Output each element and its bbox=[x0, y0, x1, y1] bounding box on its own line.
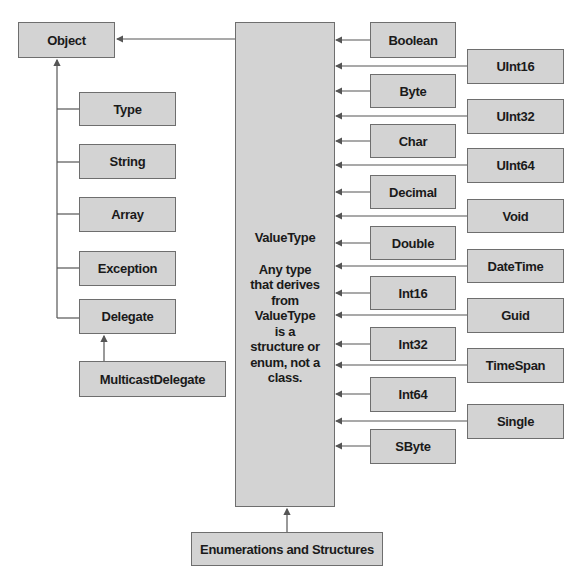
node-sbyte: SByte bbox=[370, 429, 456, 464]
type-hierarchy-diagram: Object Type String Array Exception Deleg… bbox=[0, 0, 581, 585]
node-decimal: Decimal bbox=[370, 175, 456, 209]
node-type: Type bbox=[79, 92, 176, 126]
node-uint64: UInt64 bbox=[467, 148, 564, 183]
node-object: Object bbox=[18, 22, 115, 58]
valuetype-title: ValueType bbox=[236, 230, 334, 246]
node-delegate: Delegate bbox=[79, 299, 176, 334]
node-valuetype: ValueType Any type that derives from Val… bbox=[235, 22, 335, 507]
node-string: String bbox=[79, 144, 176, 179]
node-single: Single bbox=[467, 404, 564, 439]
node-int64: Int64 bbox=[370, 377, 456, 412]
node-enumerations-and-structures: Enumerations and Structures bbox=[191, 532, 383, 566]
node-datetime: DateTime bbox=[467, 249, 564, 283]
node-uint32: UInt32 bbox=[467, 99, 564, 134]
node-guid: Guid bbox=[467, 298, 564, 333]
node-char: Char bbox=[370, 124, 456, 158]
node-multicast-delegate: MulticastDelegate bbox=[79, 361, 226, 397]
node-double: Double bbox=[370, 226, 456, 260]
node-int32: Int32 bbox=[370, 327, 456, 361]
node-array: Array bbox=[79, 197, 176, 232]
valuetype-description: Any type that derives from ValueType is … bbox=[236, 262, 334, 386]
node-uint16: UInt16 bbox=[467, 49, 564, 84]
node-exception: Exception bbox=[79, 251, 176, 286]
node-boolean: Boolean bbox=[370, 22, 456, 58]
node-void: Void bbox=[467, 199, 564, 233]
node-int16: Int16 bbox=[370, 276, 456, 310]
node-byte: Byte bbox=[370, 74, 456, 108]
node-timespan: TimeSpan bbox=[467, 348, 564, 383]
